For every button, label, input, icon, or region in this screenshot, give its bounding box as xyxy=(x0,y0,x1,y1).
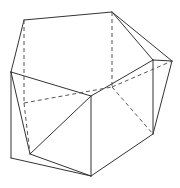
visible-edge-A-B xyxy=(24,12,112,20)
visible-edges xyxy=(11,12,172,176)
visible-edge-Bl-Bf xyxy=(11,158,91,176)
polyhedron-diagram xyxy=(0,0,180,188)
visible-edge-R-Br xyxy=(153,61,172,134)
visible-edge-F-S xyxy=(91,60,153,96)
visible-edge-Bf-Br xyxy=(91,134,153,176)
visible-edge-Bi-Bf xyxy=(30,154,91,176)
visible-edge-S-R xyxy=(153,60,172,61)
visible-edge-A-L xyxy=(11,20,24,72)
visible-edge-B-S xyxy=(112,12,153,60)
visible-edge-Bi-F xyxy=(30,96,91,154)
hidden-edge-H2-R xyxy=(112,61,172,87)
visible-edge-B-R xyxy=(112,12,172,61)
hidden-edge-H2-Br xyxy=(112,87,153,134)
visible-edge-L-F xyxy=(11,72,91,96)
hidden-edge-H1-Bi xyxy=(24,103,30,154)
visible-edge-L-Bi xyxy=(11,72,30,154)
